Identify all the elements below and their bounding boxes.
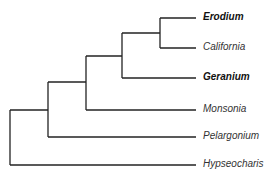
taxon-label-pelargonium: Pelargonium (203, 130, 259, 142)
phylogenetic-tree (0, 0, 272, 180)
taxon-label-erodium: Erodium (203, 11, 244, 23)
taxon-label-monsonia: Monsonia (203, 103, 246, 115)
taxon-label-geranium: Geranium (203, 71, 250, 83)
taxon-label-hypseocharis: Hypseocharis (203, 158, 264, 170)
taxon-label-california: California (203, 41, 245, 53)
